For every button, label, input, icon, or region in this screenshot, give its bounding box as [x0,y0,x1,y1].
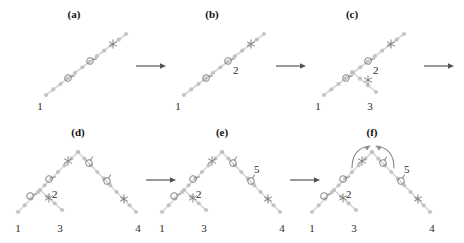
branch-node-dot [337,183,341,187]
glyph-tail [402,175,406,178]
branch-node-dot [226,157,230,161]
panel-b [182,32,266,97]
branch-right-trunk [76,150,138,214]
leaf-label-a-1: 1 [32,100,48,112]
glyph-center [211,160,213,162]
step-arrow-head [300,63,306,69]
branch-node-dot [204,76,208,80]
branch-node-dot [354,208,358,212]
circle-tail-glyph [246,175,257,185]
step-arrow-head [448,63,454,69]
branch-node-dot [336,82,340,86]
branch-node-dot [344,76,348,80]
glyph-center [267,198,269,200]
branch-node-dot [115,190,119,194]
glyph-circle [45,175,53,183]
branch-node-dot [255,37,259,41]
branch-node-dot [82,157,86,161]
branch-node-dot [51,87,55,91]
branch-node-dot [262,32,266,36]
branch-node-dot [167,203,171,207]
branch-node-dot [350,70,354,74]
leaf-label-d-4: 4 [130,222,146,234]
glyph-center [390,43,392,45]
branch-node-dot [38,188,42,192]
branch-node-dot [95,54,99,58]
branch-node-dot [102,49,106,53]
branch-node-dot [373,54,377,58]
step-arrow-head [160,63,166,69]
node-label-e-5: 5 [254,163,260,175]
glyph-center [112,43,114,45]
glyph-center [417,198,419,200]
branch-node-dot [220,150,224,154]
branch-node-dot [322,93,326,97]
panel-label-b: (b) [204,8,220,20]
leaf-label-e-3: 3 [196,222,212,234]
figure-canvas: (a)1(b)12(c)132(d)1342(e)13425(f)13425 [0,0,464,243]
panel-a [44,32,128,97]
branch-node-dot [207,163,211,167]
branch-node-dot [409,190,413,194]
branch-node-dot [127,203,131,207]
branch-node-dot [211,71,215,75]
glyph-center [67,160,69,162]
branch-node-dot [182,93,186,97]
glyph-circle [189,175,197,183]
panel-label-e: (e) [214,126,230,138]
branch-node-dot [23,203,27,207]
glyph-center [48,197,50,199]
branch-node-dot [66,76,70,80]
curved-arrow-head [365,144,371,150]
branch-node-dot [124,32,128,36]
step-arrow-head [314,177,320,183]
branch-node-dot [317,203,321,207]
branch-node-dot [358,65,362,69]
branch-node-dot [271,203,275,207]
branch-node-dot [60,208,64,212]
step-arrow-head [170,177,176,183]
panel-e [160,150,282,214]
leaf-label-e-1: 1 [154,222,170,234]
branch-node-dot [428,210,432,214]
glyph-tail [384,157,388,160]
branch-node-dot [347,201,351,205]
branch-node-dot [374,90,378,94]
branch-node-dot [197,201,201,205]
step-arrow-c-end [424,63,454,69]
node-label-e-2: 2 [196,188,202,200]
glyph-tail [234,157,238,160]
leaf-label-f-4: 4 [424,222,440,234]
branch-node-dot [16,210,20,214]
branch-node-dot [187,183,191,187]
step-arrow-b-c [276,63,306,69]
leaf-label-b-1: 1 [170,100,186,112]
branch-node-dot [240,49,244,53]
leaf-label-d-1: 1 [10,222,26,234]
glyph-tail [252,175,256,178]
glyph-circle [339,175,347,183]
branch-side-branch-3 [332,188,358,212]
node-label-f-5: 5 [404,163,410,175]
panel-label-f: (f) [364,126,380,138]
leaf-label-d-3: 3 [52,222,68,234]
leaf-label-c-3: 3 [362,100,378,112]
branch-node-dot [395,37,399,41]
leaf-label-c-1: 1 [310,100,326,112]
branch-node-dot [43,183,47,187]
panel-d [16,150,138,214]
circle-tail-glyph [102,175,113,185]
branch-node-dot [56,170,60,174]
step-arrow-a-b [136,63,166,69]
panel-label-a: (a) [66,8,82,20]
glyph-center [123,198,125,200]
branch-node-dot [80,65,84,69]
branch-trunk [322,32,406,97]
branch-node-dot [53,201,57,205]
glyph-center [192,197,194,199]
glyph-tail [90,157,94,160]
branch-node-dot [63,163,67,167]
glyph-center [361,160,363,162]
branch-node-dot [44,93,48,97]
branch-trunk [182,32,266,97]
